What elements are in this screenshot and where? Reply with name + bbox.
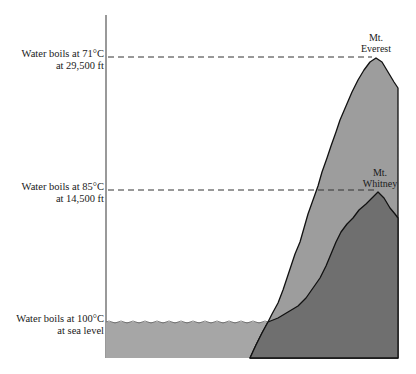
- peak-label-whitney: Mt. Whitney: [350, 167, 410, 189]
- label-line1: Water boils at 71°C: [22, 48, 104, 60]
- label-line1: Water boils at 100°C: [16, 313, 104, 325]
- peak-label-everest: Mt. Everest: [346, 32, 406, 54]
- label-whitney-boiling: Water boils at 85°C at 14,500 ft: [22, 181, 104, 205]
- label-line2: at 14,500 ft: [22, 193, 104, 205]
- peak-label-line2: Everest: [346, 43, 406, 54]
- label-sea-level-boiling: Water boils at 100°C at sea level: [16, 313, 104, 337]
- label-line2: at sea level: [16, 325, 104, 337]
- label-line1: Water boils at 85°C: [22, 181, 104, 193]
- peak-label-line2: Whitney: [350, 178, 410, 189]
- label-line2: at 29,500 ft: [22, 60, 104, 72]
- label-everest-boiling: Water boils at 71°C at 29,500 ft: [22, 48, 104, 72]
- peak-label-line1: Mt.: [346, 32, 406, 43]
- peak-label-line1: Mt.: [350, 167, 410, 178]
